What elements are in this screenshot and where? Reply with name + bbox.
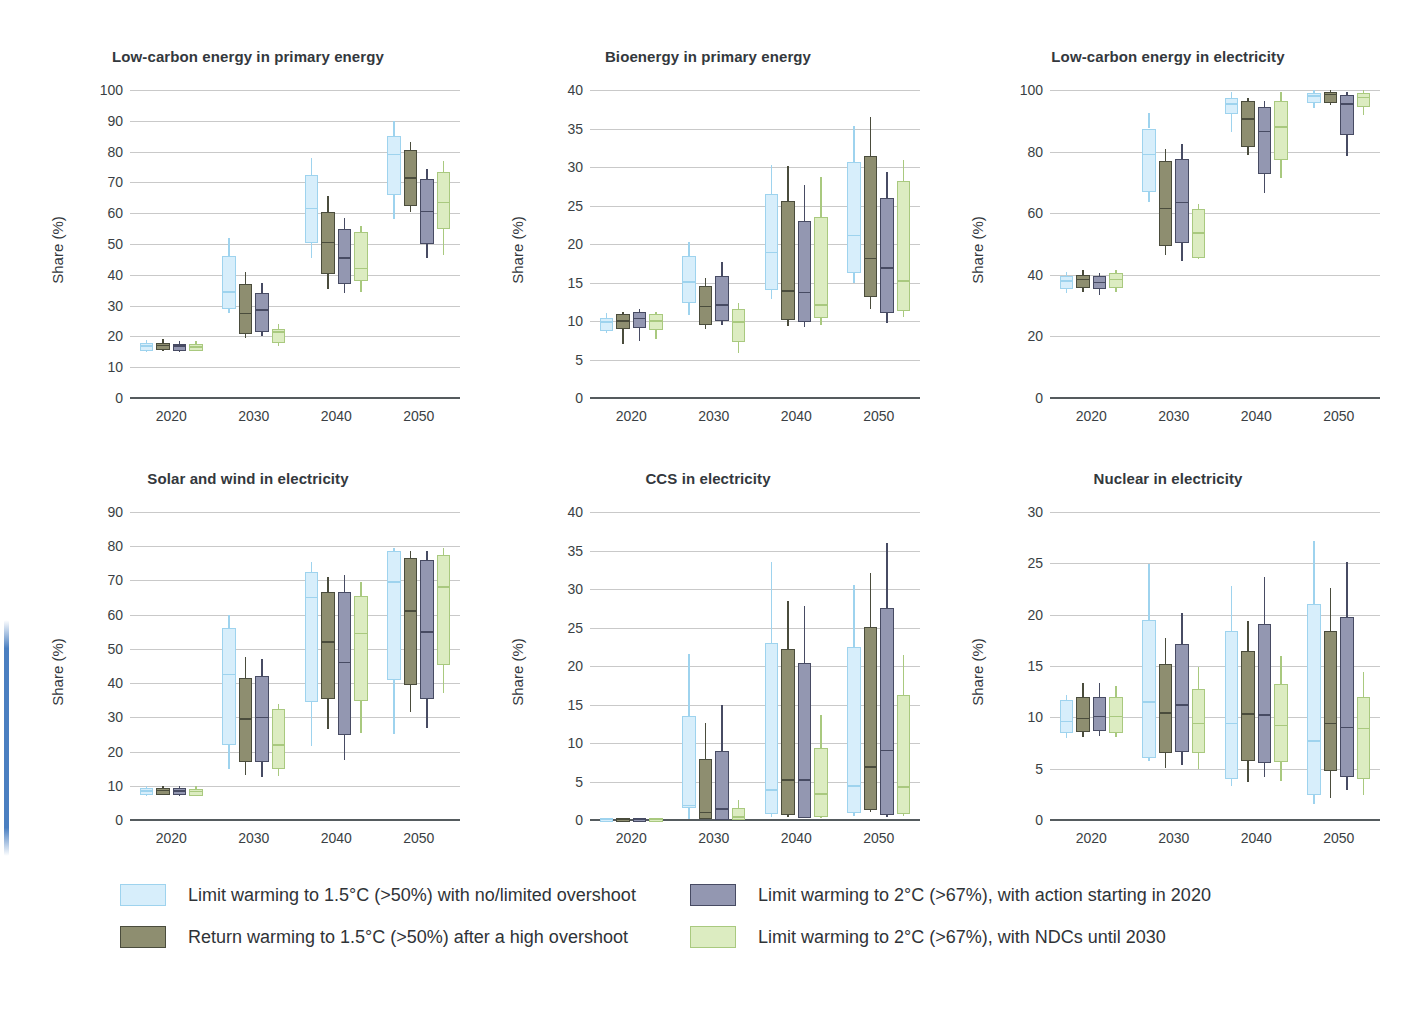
box-plot-item[interactable] bbox=[1340, 512, 1353, 820]
box-plot-item[interactable] bbox=[305, 512, 318, 820]
box-plot-item[interactable] bbox=[1307, 90, 1320, 398]
box-plot-item[interactable] bbox=[682, 90, 695, 398]
box-plot-item[interactable] bbox=[1175, 512, 1188, 820]
legend-item-2[interactable]: Limit warming to 2°C (>67%), with action… bbox=[690, 884, 1211, 906]
box-plot-item[interactable] bbox=[616, 512, 629, 820]
box-plot-item[interactable] bbox=[1241, 512, 1254, 820]
box-plot-item[interactable] bbox=[814, 512, 827, 820]
box-plot-item[interactable] bbox=[354, 512, 367, 820]
box-plot-item[interactable] bbox=[765, 90, 778, 398]
box-plot-item[interactable] bbox=[880, 512, 893, 820]
box-plot-item[interactable] bbox=[864, 512, 877, 820]
box-plot-item[interactable] bbox=[633, 512, 646, 820]
box-plot-item[interactable] bbox=[1357, 90, 1370, 398]
box-plot-item[interactable] bbox=[173, 90, 186, 398]
box-plot-item[interactable] bbox=[1324, 512, 1337, 820]
box-plot-item[interactable] bbox=[387, 512, 400, 820]
box-plot-item[interactable] bbox=[715, 512, 728, 820]
box-plot-item[interactable] bbox=[140, 90, 153, 398]
legend-item-3[interactable]: Limit warming to 2°C (>67%), with NDCs u… bbox=[690, 926, 1166, 948]
box-plot-item[interactable] bbox=[305, 90, 318, 398]
box-plot-item[interactable] bbox=[864, 90, 877, 398]
box-plot-item[interactable] bbox=[1060, 512, 1073, 820]
box-plot-item[interactable] bbox=[682, 512, 695, 820]
box-plot-item[interactable] bbox=[1093, 512, 1106, 820]
box-plot-item[interactable] bbox=[140, 512, 153, 820]
box-plot-item[interactable] bbox=[649, 90, 662, 398]
box-plot-item[interactable] bbox=[1076, 512, 1089, 820]
box-plot-item[interactable] bbox=[272, 512, 285, 820]
box-plot-item[interactable] bbox=[699, 90, 712, 398]
box-plot-item[interactable] bbox=[649, 512, 662, 820]
box-plot-item[interactable] bbox=[255, 90, 268, 398]
box-plot-item[interactable] bbox=[1076, 90, 1089, 398]
box-plot-item[interactable] bbox=[765, 512, 778, 820]
box-plot-item[interactable] bbox=[222, 512, 235, 820]
box-plot-item[interactable] bbox=[633, 90, 646, 398]
box-plot-item[interactable] bbox=[1093, 90, 1106, 398]
box-plot-item[interactable] bbox=[1274, 90, 1287, 398]
box-plot-item[interactable] bbox=[798, 90, 811, 398]
box-plot-item[interactable] bbox=[189, 512, 202, 820]
box-plot-item[interactable] bbox=[897, 512, 910, 820]
box-plot-item[interactable] bbox=[1192, 90, 1205, 398]
box-plot-item[interactable] bbox=[715, 90, 728, 398]
box-plot-item[interactable] bbox=[1109, 512, 1122, 820]
box-plot-item[interactable] bbox=[1142, 512, 1155, 820]
box-plot-item[interactable] bbox=[847, 512, 860, 820]
box-plot-item[interactable] bbox=[156, 512, 169, 820]
legend-item-0[interactable]: Limit warming to 1.5°C (>50%) with no/li… bbox=[120, 884, 636, 906]
box-plot-item[interactable] bbox=[798, 512, 811, 820]
box-plot-item[interactable] bbox=[880, 90, 893, 398]
box-plot-item[interactable] bbox=[239, 512, 252, 820]
box-plot-item[interactable] bbox=[897, 90, 910, 398]
box-plot-item[interactable] bbox=[338, 512, 351, 820]
box-plot-item[interactable] bbox=[437, 90, 450, 398]
box-plot-item[interactable] bbox=[732, 512, 745, 820]
box-plot-item[interactable] bbox=[189, 90, 202, 398]
box-plot-item[interactable] bbox=[781, 90, 794, 398]
box-plot-item[interactable] bbox=[1109, 90, 1122, 398]
box-plot-item[interactable] bbox=[1307, 512, 1320, 820]
box-plot-item[interactable] bbox=[437, 512, 450, 820]
box-plot-item[interactable] bbox=[321, 512, 334, 820]
box-plot-item[interactable] bbox=[338, 90, 351, 398]
box-plot-item[interactable] bbox=[1142, 90, 1155, 398]
box-plot-item[interactable] bbox=[420, 90, 433, 398]
box-plot-item[interactable] bbox=[1258, 90, 1271, 398]
box-plot-item[interactable] bbox=[272, 90, 285, 398]
box-plot-item[interactable] bbox=[1060, 90, 1073, 398]
box-plot-item[interactable] bbox=[1225, 512, 1238, 820]
box-plot-item[interactable] bbox=[404, 90, 417, 398]
box-plot-item[interactable] bbox=[1192, 512, 1205, 820]
box-plot-item[interactable] bbox=[354, 90, 367, 398]
box-plot-item[interactable] bbox=[156, 90, 169, 398]
legend-item-1[interactable]: Return warming to 1.5°C (>50%) after a h… bbox=[120, 926, 628, 948]
box-plot-item[interactable] bbox=[1258, 512, 1271, 820]
box-plot-item[interactable] bbox=[173, 512, 186, 820]
box-plot-item[interactable] bbox=[1159, 512, 1172, 820]
box-plot-item[interactable] bbox=[1159, 90, 1172, 398]
box-plot-item[interactable] bbox=[404, 512, 417, 820]
box-plot-item[interactable] bbox=[781, 512, 794, 820]
box-plot-item[interactable] bbox=[387, 90, 400, 398]
box-plot-item[interactable] bbox=[1357, 512, 1370, 820]
box-plot-item[interactable] bbox=[1340, 90, 1353, 398]
box-plot-item[interactable] bbox=[616, 90, 629, 398]
box-plot-item[interactable] bbox=[255, 512, 268, 820]
box-plot-item[interactable] bbox=[600, 512, 613, 820]
box-plot-item[interactable] bbox=[1274, 512, 1287, 820]
box-plot-item[interactable] bbox=[699, 512, 712, 820]
box-plot-item[interactable] bbox=[1225, 90, 1238, 398]
box-plot-item[interactable] bbox=[1241, 90, 1254, 398]
box-plot-item[interactable] bbox=[600, 90, 613, 398]
box-plot-item[interactable] bbox=[420, 512, 433, 820]
box-plot-item[interactable] bbox=[239, 90, 252, 398]
box-plot-item[interactable] bbox=[222, 90, 235, 398]
box-plot-item[interactable] bbox=[814, 90, 827, 398]
box-plot-item[interactable] bbox=[1324, 90, 1337, 398]
box-plot-item[interactable] bbox=[321, 90, 334, 398]
box-plot-item[interactable] bbox=[732, 90, 745, 398]
box-plot-item[interactable] bbox=[1175, 90, 1188, 398]
box-plot-item[interactable] bbox=[847, 90, 860, 398]
